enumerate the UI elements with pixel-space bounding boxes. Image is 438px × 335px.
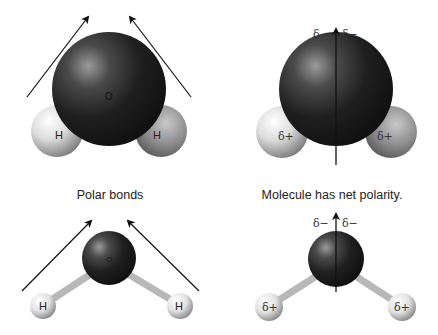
hydrogen-label-left: H xyxy=(55,129,63,141)
partial-negative-label-right: δ− xyxy=(342,28,358,41)
caption-net-polarity: Molecule has net polarity. xyxy=(262,188,403,202)
partial-negative-label-right: δ− xyxy=(342,217,358,230)
panel-space-filling-bonds: O H H xyxy=(27,17,191,157)
partial-positive-label-left: δ+ xyxy=(278,130,294,143)
panel-ball-and-stick-bonds: O H H xyxy=(22,221,199,319)
oxygen-label: O xyxy=(105,91,113,102)
oxygen-label: O xyxy=(106,255,112,264)
hydrogen-label-right: H xyxy=(153,129,161,141)
oxygen-atom xyxy=(52,32,166,146)
hydrogen-label-left: H xyxy=(39,300,47,312)
partial-positive-label-right: δ+ xyxy=(377,130,393,143)
panel-ball-and-stick-net: δ− δ− δ+ δ+ xyxy=(255,214,416,321)
hydrogen-label-right: H xyxy=(175,300,183,312)
partial-negative-label-left: δ− xyxy=(313,217,329,230)
partial-negative-label-left: δ− xyxy=(313,28,329,41)
caption-polar-bonds: Polar bonds xyxy=(77,188,144,202)
partial-positive-label-left: δ+ xyxy=(262,301,278,314)
partial-positive-label-right: δ+ xyxy=(394,301,410,314)
panel-space-filling-net: δ− δ− δ+ δ+ xyxy=(256,28,417,165)
water-polarity-diagram: O H H δ− δ− δ+ δ+ Polar bonds Molecule h… xyxy=(0,0,438,335)
